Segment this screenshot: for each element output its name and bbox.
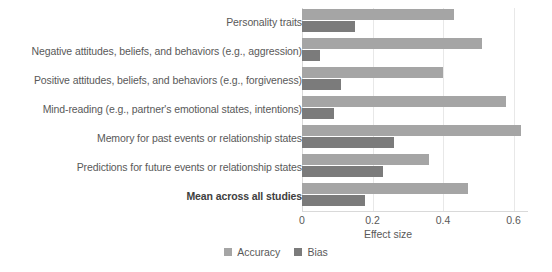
chart-row: Mind-reading (e.g., partner's emotional … bbox=[0, 95, 552, 123]
category-label: Mean across all studies bbox=[186, 182, 302, 210]
chart-row: Mean across all studies bbox=[0, 182, 552, 210]
legend-item[interactable]: Bias bbox=[294, 246, 327, 258]
bar-accuracy bbox=[302, 154, 429, 165]
bar-bias bbox=[302, 50, 320, 61]
category-label: Mind-reading (e.g., partner's emotional … bbox=[43, 95, 302, 123]
bar-accuracy bbox=[302, 9, 454, 20]
category-label: Negative attitudes, beliefs, and behavio… bbox=[31, 37, 302, 65]
bar-accuracy bbox=[302, 38, 482, 49]
category-label: Positive attitudes, beliefs, and behavio… bbox=[34, 66, 302, 94]
x-axis-line bbox=[302, 211, 528, 212]
bar-chart: Personality traitsNegative attitudes, be… bbox=[0, 0, 552, 272]
bar-accuracy bbox=[302, 183, 468, 194]
bar-accuracy bbox=[302, 67, 443, 78]
bar-group bbox=[302, 95, 542, 123]
legend-swatch-icon bbox=[224, 248, 232, 256]
chart-row: Personality traits bbox=[0, 8, 552, 36]
chart-rows: Personality traitsNegative attitudes, be… bbox=[0, 8, 552, 211]
bar-accuracy bbox=[302, 96, 506, 107]
bar-group bbox=[302, 37, 542, 65]
x-axis-title-label: Effect size bbox=[364, 228, 412, 240]
x-axis-title: Effect size bbox=[0, 228, 552, 240]
category-label: Personality traits bbox=[226, 8, 302, 36]
bar-bias bbox=[302, 195, 365, 206]
legend-item[interactable]: Accuracy bbox=[224, 246, 280, 258]
bar-bias bbox=[302, 79, 341, 90]
x-tick-label: 0.2 bbox=[365, 214, 380, 226]
x-tick-label: 0 bbox=[299, 214, 305, 226]
legend-swatch-icon bbox=[294, 248, 302, 256]
bar-group bbox=[302, 8, 542, 36]
category-label: Memory for past events or relationship s… bbox=[97, 124, 302, 152]
bar-group bbox=[302, 66, 542, 94]
chart-row: Memory for past events or relationship s… bbox=[0, 124, 552, 152]
x-tick-label: 0.4 bbox=[436, 214, 451, 226]
legend-label: Bias bbox=[307, 246, 327, 258]
bar-bias bbox=[302, 108, 334, 119]
chart-row: Negative attitudes, beliefs, and behavio… bbox=[0, 37, 552, 65]
bar-bias bbox=[302, 166, 383, 177]
chart-legend: AccuracyBias bbox=[0, 246, 552, 258]
bar-group bbox=[302, 124, 542, 152]
bar-bias bbox=[302, 21, 355, 32]
bar-accuracy bbox=[302, 125, 521, 136]
chart-row: Predictions for future events or relatio… bbox=[0, 153, 552, 181]
bar-bias bbox=[302, 137, 394, 148]
bar-group bbox=[302, 153, 542, 181]
legend-label: Accuracy bbox=[237, 246, 280, 258]
chart-row: Positive attitudes, beliefs, and behavio… bbox=[0, 66, 552, 94]
category-label: Predictions for future events or relatio… bbox=[77, 153, 302, 181]
bar-group bbox=[302, 182, 542, 210]
x-tick-label: 0.6 bbox=[506, 214, 521, 226]
